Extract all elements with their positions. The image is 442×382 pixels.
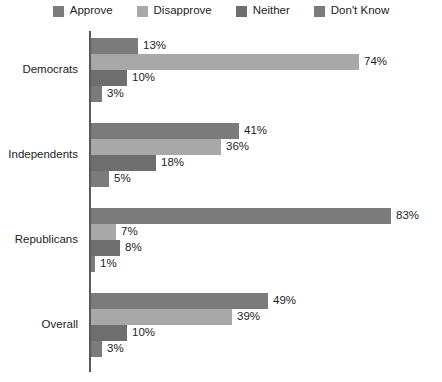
bar-row: 10% [91, 70, 155, 86]
bar-group-independents: Independents41%36%18%5% [0, 123, 442, 187]
bar-disapprove[interactable] [91, 224, 116, 240]
bar-value-label: 39% [237, 311, 260, 323]
bar-group-democrats: Democrats13%74%10%3% [0, 38, 442, 102]
legend-swatch-icon [53, 6, 64, 17]
legend-swatch-icon [236, 6, 247, 17]
bar-row: 10% [91, 325, 155, 341]
legend-label: Disapprove [154, 5, 212, 17]
bar-approve[interactable] [91, 208, 391, 224]
legend-item-don-t-know[interactable]: Don't Know [314, 5, 389, 17]
bar-neither[interactable] [91, 240, 120, 256]
bar-neither[interactable] [91, 155, 156, 171]
category-label: Independents [0, 149, 78, 161]
bar-don-t-know[interactable] [91, 256, 95, 272]
bar-disapprove[interactable] [91, 54, 359, 70]
legend-label: Neither [253, 5, 290, 17]
chart-legend: ApproveDisapproveNeitherDon't Know [0, 0, 442, 22]
bar-neither[interactable] [91, 70, 127, 86]
bar-row: 18% [91, 155, 184, 171]
bar-value-label: 5% [114, 173, 131, 185]
bar-value-label: 41% [244, 125, 267, 137]
bar-value-label: 18% [161, 157, 184, 169]
bar-row: 49% [91, 293, 296, 309]
bar-don-t-know[interactable] [91, 86, 102, 102]
legend-label: Don't Know [331, 5, 389, 17]
bar-don-t-know[interactable] [91, 341, 102, 357]
bar-value-label: 83% [396, 210, 419, 222]
bar-value-label: 3% [107, 88, 124, 100]
bar-value-label: 10% [132, 327, 155, 339]
bar-value-label: 3% [107, 343, 124, 355]
bar-row: 13% [91, 38, 166, 54]
bar-disapprove[interactable] [91, 139, 221, 155]
bar-value-label: 1% [100, 258, 117, 270]
bar-approve[interactable] [91, 293, 268, 309]
bar-value-label: 8% [125, 242, 142, 254]
chart-plot-area: Democrats13%74%10%3%Independents41%36%18… [0, 26, 442, 378]
legend-item-disapprove[interactable]: Disapprove [137, 5, 212, 17]
bar-value-label: 7% [121, 226, 138, 238]
bar-don-t-know[interactable] [91, 171, 109, 187]
bar-row: 83% [91, 208, 419, 224]
category-label: Overall [0, 319, 78, 331]
bar-value-label: 10% [132, 72, 155, 84]
legend-item-neither[interactable]: Neither [236, 5, 290, 17]
bar-row: 3% [91, 341, 124, 357]
bar-row: 74% [91, 54, 387, 70]
category-label: Republicans [0, 234, 78, 246]
bar-value-label: 36% [226, 141, 249, 153]
bar-row: 3% [91, 86, 124, 102]
legend-item-approve[interactable]: Approve [53, 5, 113, 17]
legend-swatch-icon [314, 6, 325, 17]
bar-row: 8% [91, 240, 142, 256]
bar-row: 36% [91, 139, 249, 155]
bar-group-republicans: Republicans83%7%8%1% [0, 208, 442, 272]
legend-swatch-icon [137, 6, 148, 17]
category-label: Democrats [0, 64, 78, 76]
bar-row: 41% [91, 123, 267, 139]
bar-value-label: 13% [143, 40, 166, 52]
bar-group-overall: Overall49%39%10%3% [0, 293, 442, 357]
bar-approve[interactable] [91, 38, 138, 54]
bar-neither[interactable] [91, 325, 127, 341]
bar-disapprove[interactable] [91, 309, 232, 325]
bar-row: 1% [91, 256, 117, 272]
bar-value-label: 74% [364, 56, 387, 68]
bar-approve[interactable] [91, 123, 239, 139]
bar-row: 5% [91, 171, 131, 187]
legend-label: Approve [70, 5, 113, 17]
bar-row: 39% [91, 309, 260, 325]
bar-row: 7% [91, 224, 138, 240]
bar-value-label: 49% [273, 295, 296, 307]
